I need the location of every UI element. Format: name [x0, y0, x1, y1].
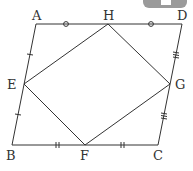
equal-mark-tick-eb: [15, 114, 21, 115]
label-e: E: [7, 77, 17, 92]
label-c: C: [153, 148, 163, 163]
label-g: G: [175, 77, 185, 92]
equal-mark-triple-gc: [161, 113, 167, 119]
geometry-figure: A H D E G B F C: [0, 0, 193, 171]
quadrilateral-efgh: [24, 24, 170, 145]
label-b: B: [6, 148, 16, 163]
label-h: H: [103, 8, 114, 23]
label-d: D: [177, 8, 187, 23]
parallelogram-abcd: [12, 24, 182, 145]
label-f: F: [80, 148, 89, 163]
equal-mark-tick-ae: [27, 54, 33, 55]
label-a: A: [31, 8, 42, 23]
equal-mark-triple-dg: [173, 52, 179, 58]
